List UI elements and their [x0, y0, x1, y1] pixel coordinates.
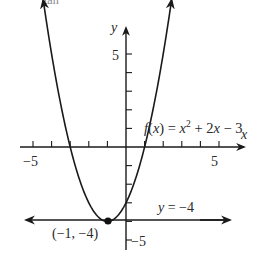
- x-tick-label-neg5: −5: [23, 154, 38, 169]
- y-axis-label: y: [109, 20, 118, 35]
- parabola-curve: [43, 0, 171, 221]
- asymptote-label: y = −4: [156, 200, 194, 215]
- y-tick-label-neg5: −5: [131, 234, 146, 249]
- function-label: f(x) = x2 + 2x − 3: [144, 119, 243, 137]
- x-tick-label-5: 5: [211, 154, 218, 169]
- vertex-label: (−1, −4): [52, 226, 98, 242]
- parabola-graph: x y −5 5 5 −5 f(x) = x2 + 2x − 3 y = −4 …: [0, 0, 280, 256]
- y-tick-label-5: 5: [112, 48, 119, 63]
- vertex-point: [104, 217, 111, 224]
